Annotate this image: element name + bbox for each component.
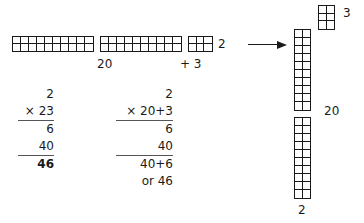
- unit-square: [125, 37, 133, 44]
- unit-square: [149, 37, 157, 44]
- unit-square: [157, 37, 165, 44]
- unit-square: [173, 44, 181, 51]
- small-ones-block: [318, 5, 335, 30]
- unit-square: [37, 37, 45, 44]
- unit-square: [77, 44, 85, 51]
- unit-square: [295, 118, 303, 126]
- product: 46: [20, 156, 54, 173]
- unit-square: [295, 102, 303, 110]
- unit-square: [295, 70, 303, 78]
- unit-square: [303, 102, 311, 110]
- unit-square: [53, 44, 61, 51]
- unit-square: [303, 150, 311, 158]
- unit-square: [295, 166, 303, 174]
- unit-square: [53, 37, 61, 44]
- unit-square: [327, 21, 335, 29]
- tens-strip-2: [100, 36, 182, 52]
- ones-label: + 3: [180, 57, 202, 71]
- unit-square: [29, 44, 37, 51]
- unit-square: [303, 134, 311, 142]
- unit-square: [303, 86, 311, 94]
- unit-square: [85, 44, 93, 51]
- unit-square: [303, 46, 311, 54]
- unit-square: [109, 44, 117, 51]
- unit-square: [69, 44, 77, 51]
- unit-square: [295, 54, 303, 62]
- unit-square: [303, 30, 311, 38]
- unit-square: [295, 174, 303, 182]
- unit-square: [165, 37, 173, 44]
- unit-square: [45, 44, 53, 51]
- unit-square: [133, 44, 141, 51]
- unit-square: [303, 62, 311, 70]
- unit-square: [327, 6, 335, 14]
- partial-product-2: 40: [116, 138, 173, 155]
- unit-square: [61, 37, 69, 44]
- unit-square: [197, 37, 205, 44]
- unit-square: [295, 38, 303, 46]
- unit-square: [319, 21, 327, 29]
- sum-expression: 40+6: [116, 156, 173, 173]
- unit-square: [101, 44, 109, 51]
- partial-product-1: 6: [116, 121, 173, 138]
- unit-square: [157, 44, 165, 51]
- unit-square: [204, 44, 212, 51]
- unit-square: [149, 44, 157, 51]
- unit-square: [101, 37, 109, 44]
- unit-square: [29, 37, 37, 44]
- unit-square: [109, 37, 117, 44]
- unit-square: [125, 44, 133, 51]
- unit-square: [61, 44, 69, 51]
- unit-square: [133, 37, 141, 44]
- unit-square: [21, 37, 29, 44]
- tens-column-1: [294, 29, 311, 111]
- unit-square: [303, 38, 311, 46]
- unit-square: [189, 44, 197, 51]
- unit-square: [303, 118, 311, 126]
- unit-square: [295, 78, 303, 86]
- multiplier: × 20+3: [116, 103, 173, 120]
- product: or 46: [116, 173, 173, 190]
- unit-square: [295, 134, 303, 142]
- unit-square: [295, 158, 303, 166]
- unit-square: [77, 37, 85, 44]
- vertical-tens-label: 20: [324, 104, 339, 118]
- unit-square: [173, 37, 181, 44]
- unit-square: [295, 46, 303, 54]
- standard-calculation: 2 × 23 6 40 46: [20, 86, 54, 173]
- unit-square: [13, 44, 21, 51]
- unit-square: [141, 44, 149, 51]
- unit-square: [295, 126, 303, 134]
- unit-square: [69, 37, 77, 44]
- unit-square: [303, 54, 311, 62]
- unit-square: [303, 166, 311, 174]
- unit-square: [303, 94, 311, 102]
- unit-square: [295, 30, 303, 38]
- unit-square: [295, 142, 303, 150]
- unit-square: [37, 44, 45, 51]
- unit-square: [141, 37, 149, 44]
- tens-label: 20: [97, 57, 112, 71]
- unit-square: [45, 37, 53, 44]
- unit-square: [117, 44, 125, 51]
- multiplicand: 2: [20, 86, 54, 103]
- unit-square: [295, 62, 303, 70]
- unit-square: [295, 94, 303, 102]
- unit-square: [13, 37, 21, 44]
- unit-square: [117, 37, 125, 44]
- unit-square: [303, 78, 311, 86]
- unit-square: [189, 37, 197, 44]
- unit-square: [295, 150, 303, 158]
- height-label: 2: [218, 37, 226, 51]
- unit-square: [303, 142, 311, 150]
- tens-column-2: [294, 117, 311, 199]
- unit-square: [319, 6, 327, 14]
- unit-square: [165, 44, 173, 51]
- tens-strip-1: [12, 36, 94, 52]
- ones-strip: [188, 36, 213, 52]
- unit-square: [303, 126, 311, 134]
- unit-square: [303, 70, 311, 78]
- width-label: 2: [298, 203, 306, 217]
- small-block-label: 3: [343, 6, 351, 20]
- unit-square: [327, 14, 335, 22]
